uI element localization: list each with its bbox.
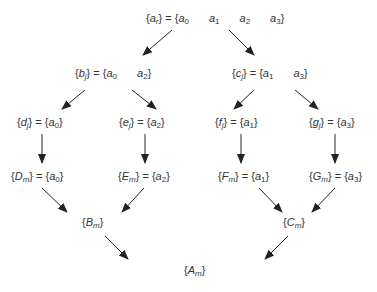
node-E-symbol: E <box>122 170 129 182</box>
element-subscript: 2 <box>246 17 250 26</box>
node-G-symbol: G <box>313 170 322 182</box>
node-C-subscript: m <box>295 221 302 230</box>
arrow-c-to-f <box>234 90 254 109</box>
element-subscript: 1 <box>215 17 219 26</box>
node-A-symbol: A <box>188 264 195 276</box>
element-subscript: 0 <box>185 17 189 26</box>
element-subscript: 2 <box>162 175 166 184</box>
arrow-C-to-A <box>265 236 288 259</box>
element-subscript: 3 <box>347 121 351 130</box>
node-d: {dj} = {a0} <box>17 116 63 129</box>
node-b: {bj} = {a0a2} <box>75 67 151 80</box>
element-subscript: 0 <box>55 121 59 130</box>
node-d-subscript: j <box>27 121 29 130</box>
node-g-subscript: j <box>319 121 321 130</box>
element-subscript: 3 <box>300 72 304 81</box>
arrow-F-to-C <box>259 188 282 212</box>
node-C: {Cm} <box>283 216 305 229</box>
node-g: {gj} = {a3} <box>309 116 355 129</box>
node-B: {Bm} <box>82 216 103 229</box>
node-E: {Em} = {a2} <box>118 170 170 183</box>
node-f-subscript: j <box>222 121 224 130</box>
node-G: {Gm} = {a3} <box>309 170 362 183</box>
node-F-subscript: m <box>228 175 235 184</box>
node-root: {ar} = {a0a1a2a3} <box>146 12 284 25</box>
element-subscript: 0 <box>113 72 117 81</box>
node-c-subscript: j <box>241 72 243 81</box>
node-e: {ej} = {a2} <box>119 116 165 129</box>
node-D-subscript: m <box>23 175 30 184</box>
arrow-G-to-C <box>312 188 335 212</box>
node-D: {Dm} = {a0} <box>11 170 63 183</box>
arrow-D-to-B <box>42 188 67 212</box>
arrow-root-to-c <box>229 30 254 55</box>
node-D-symbol: D <box>15 170 23 182</box>
arrow-B-to-A <box>105 236 128 259</box>
arrow-b-to-d <box>62 90 85 109</box>
node-c: {cj} = {a1a3} <box>232 67 308 80</box>
node-b-subscript: j <box>85 72 87 81</box>
arrow-b-to-e <box>132 90 156 109</box>
arrow-c-to-g <box>295 90 318 109</box>
node-B-subscript: m <box>93 221 100 230</box>
element-subscript: 1 <box>269 72 273 81</box>
node-f: {fj} = {a1} <box>215 116 258 129</box>
node-B-symbol: B <box>86 216 93 228</box>
node-A-subscript: m <box>195 269 202 278</box>
node-E-subscript: m <box>129 175 136 184</box>
element-subscript: 2 <box>157 121 161 130</box>
element-subscript: 3 <box>276 17 280 26</box>
node-root-subscript: r <box>156 17 159 26</box>
node-C-symbol: C <box>287 216 295 228</box>
element-subscript: 1 <box>261 175 265 184</box>
element-subscript: 1 <box>250 121 254 130</box>
arrow-root-to-b <box>143 30 172 55</box>
element-subscript: 0 <box>55 175 59 184</box>
node-G-subscript: m <box>321 175 328 184</box>
node-F: {Fm} = {a1} <box>218 170 269 183</box>
node-e-subscript: j <box>129 121 131 130</box>
element-subscript: 3 <box>354 175 358 184</box>
element-subscript: 2 <box>143 72 147 81</box>
arrows-layer <box>0 0 377 292</box>
node-A: {Am} <box>184 264 205 277</box>
arrow-E-to-B <box>122 188 144 212</box>
